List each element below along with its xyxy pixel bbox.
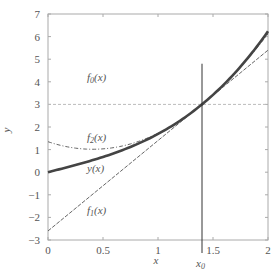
- svg-text:1.5: 1.5: [206, 244, 220, 256]
- svg-text:3: 3: [35, 98, 41, 110]
- plot-frame: [48, 14, 268, 240]
- svg-text:−2: −2: [28, 211, 40, 223]
- svg-text:0: 0: [35, 166, 41, 178]
- svg-text:4: 4: [35, 76, 41, 88]
- chart: 00.511.52−3−2−101234567 f0(x) f2(x) y(x)…: [0, 0, 276, 275]
- svg-text:−3: −3: [28, 234, 40, 246]
- f2-label: f2(x): [87, 131, 107, 145]
- y-axis-label: y: [0, 127, 12, 133]
- svg-text:0: 0: [45, 244, 51, 256]
- curve-f1x: [48, 50, 268, 231]
- x-axis-label: x: [153, 254, 159, 266]
- f0-label: f0(x): [87, 71, 107, 85]
- svg-text:2: 2: [265, 244, 271, 256]
- curve-f2x: [48, 34, 268, 149]
- svg-text:2: 2: [35, 121, 41, 133]
- curve-yx: [48, 31, 268, 172]
- axis-ticks: [48, 14, 268, 240]
- svg-text:0.5: 0.5: [96, 244, 110, 256]
- curves: [48, 31, 268, 231]
- svg-text:1: 1: [35, 144, 41, 156]
- x0-label: x0: [195, 257, 205, 271]
- y-label: y(x): [86, 162, 104, 175]
- tick-labels: 00.511.52−3−2−101234567: [28, 8, 270, 256]
- svg-text:7: 7: [35, 8, 41, 20]
- svg-text:6: 6: [35, 31, 41, 43]
- svg-text:5: 5: [35, 53, 41, 65]
- svg-text:−1: −1: [28, 189, 40, 201]
- f1-label: f1(x): [87, 204, 107, 218]
